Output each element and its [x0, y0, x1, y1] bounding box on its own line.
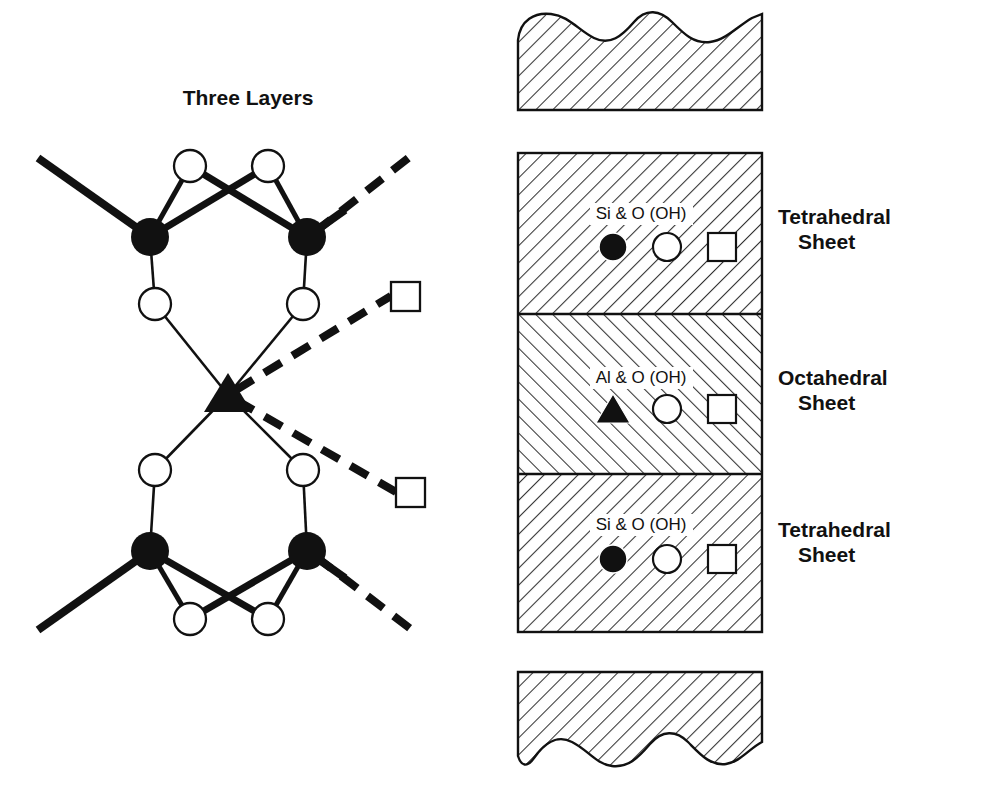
right-panel-slabs: Si & O (OH) Al & O (OH) Si & O (OH) — [518, 10, 891, 772]
silicon-atom — [288, 532, 326, 570]
page-title: Three Layers — [183, 86, 314, 109]
clay-mineral-structure-diagram: Three Layers — [0, 0, 1007, 803]
legend-label-tetrahedral-top: Si & O (OH) — [596, 204, 687, 223]
oxygen-atom — [174, 150, 206, 182]
legend-silicon-symbol — [599, 545, 627, 573]
oxygen-atom — [139, 454, 171, 486]
legend-oxygen-symbol — [653, 545, 681, 573]
oxygen-atom — [174, 603, 206, 635]
dashed-bond-upper-right-exterior — [315, 155, 412, 232]
left-panel-structure: Three Layers — [38, 86, 425, 635]
legend-label-octahedral: Al & O (OH) — [596, 368, 687, 387]
hydroxyl-square — [396, 478, 425, 507]
silicon-atom — [288, 218, 326, 256]
oxygen-atom — [287, 454, 319, 486]
bond-o-mid-right-to-al-upper — [228, 304, 303, 395]
sheet-labels: Tetrahedral Sheet Octahedral Sheet Tetra… — [778, 205, 891, 566]
slab-below-hatch-fill — [518, 672, 762, 772]
sheet-label-octahedral-line1: Octahedral — [778, 366, 888, 389]
sheet-label-octahedral-line2: Sheet — [798, 391, 855, 414]
oxygen-atom — [139, 288, 171, 320]
oxygen-atom — [252, 603, 284, 635]
legend-oxygen-symbol — [653, 395, 681, 423]
oxygen-atom — [287, 288, 319, 320]
legend-hydroxyl-symbol — [708, 545, 736, 573]
silicon-atom — [131, 532, 169, 570]
aluminium-atom — [204, 373, 252, 412]
slab-above — [518, 10, 762, 110]
hydroxyl-square — [391, 282, 420, 311]
bond-si-exterior-upper-left — [38, 158, 150, 237]
dashed-bond-lower-right-exterior — [315, 556, 412, 630]
sheet-label-tetrahedral-bottom-line1: Tetrahedral — [778, 518, 891, 541]
legend-hydroxyl-symbol — [708, 233, 736, 261]
legend-silicon-symbol — [599, 233, 627, 261]
legend-label-tetrahedral-bottom: Si & O (OH) — [596, 515, 687, 534]
bond-o-mid-left-to-al-upper — [155, 304, 228, 395]
legend-oxygen-symbol — [653, 233, 681, 261]
slab-below — [518, 672, 762, 772]
slab-above-hatch-fill — [518, 10, 762, 110]
sheet-label-tetrahedral-top-line2: Sheet — [798, 230, 855, 253]
sheet-label-tetrahedral-top-line1: Tetrahedral — [778, 205, 891, 228]
silicon-atom — [131, 218, 169, 256]
bond-si-exterior-lower-left — [38, 551, 150, 630]
legend-hydroxyl-symbol — [708, 395, 736, 423]
sheet-label-tetrahedral-bottom-line2: Sheet — [798, 543, 855, 566]
oxygen-atom — [252, 150, 284, 182]
figure-canvas: Three Layers — [0, 0, 1007, 803]
